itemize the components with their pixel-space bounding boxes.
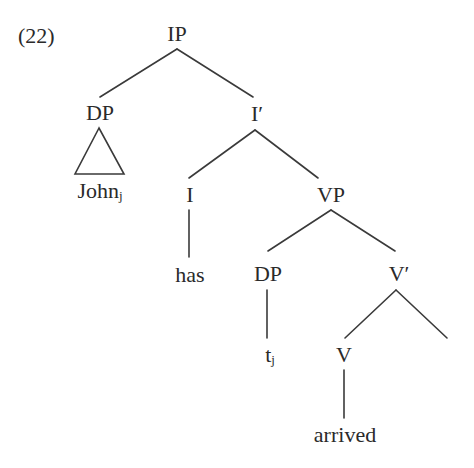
john-index: j: [119, 188, 123, 203]
node-arrived: arrived: [314, 424, 376, 446]
node-trace: tj: [265, 344, 275, 366]
node-i-head: I: [186, 184, 193, 206]
node-has: has: [175, 264, 204, 286]
trace-index: j: [271, 352, 275, 367]
node-v-bar: V′: [389, 263, 410, 285]
node-i-bar: I′: [251, 103, 263, 125]
node-vp: VP: [317, 184, 345, 206]
edge-ibar-vp: [255, 130, 318, 178]
edge-ip-dp: [100, 49, 177, 97]
edge-vbar-empty: [396, 290, 447, 338]
node-ip: IP: [167, 23, 187, 45]
edge-vbar-v: [345, 290, 396, 338]
node-dp-subject: DP: [86, 102, 114, 124]
syntax-tree-edges: [0, 0, 474, 468]
example-number: (22): [18, 25, 55, 47]
edge-vp-vbar: [331, 210, 395, 251]
edge-ibar-i: [189, 130, 255, 178]
node-john: Johnj: [77, 180, 122, 202]
edge-vp-dp: [268, 210, 331, 251]
node-dp-trace: DP: [254, 263, 282, 285]
node-v-head: V: [336, 344, 352, 366]
edge-ip-ibar: [177, 49, 253, 97]
john-word: John: [77, 178, 119, 203]
dp-triangle: [75, 128, 124, 174]
